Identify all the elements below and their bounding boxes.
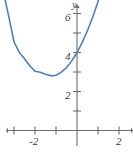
y-tick-label-6: 6 <box>65 12 71 23</box>
y-tick-label-2: 2 <box>65 90 71 101</box>
x-tick-label-neg2: -2 <box>29 136 38 147</box>
x-axis-arrow-left <box>6 128 8 134</box>
x-tick-label-2: 2 <box>116 136 122 147</box>
parabola-graph-figure: y 6 4 2 -2 2 <box>0 0 133 152</box>
y-tick-label-4: 4 <box>65 51 71 62</box>
x-axis-arrow-right <box>131 128 133 134</box>
parabola-curve <box>0 0 101 76</box>
y-axis-name-label: y <box>72 0 76 10</box>
